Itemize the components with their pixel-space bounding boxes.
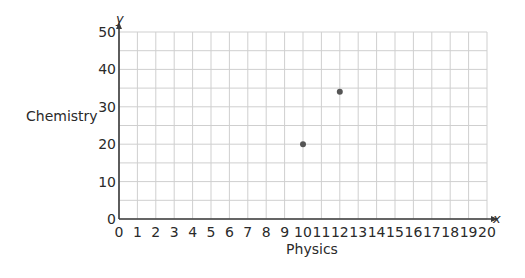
x-tick-label: 14 <box>368 224 386 240</box>
x-tick-label: 6 <box>225 224 234 240</box>
x-axis-variable: x <box>492 211 501 226</box>
x-tick-label: 1 <box>133 224 142 240</box>
x-tick-label: 12 <box>331 224 349 240</box>
x-tick-label: 3 <box>170 224 179 240</box>
x-tick-label: 4 <box>188 224 197 240</box>
data-point <box>337 89 343 95</box>
axes <box>116 22 498 222</box>
x-tick-label: 17 <box>423 224 441 240</box>
y-tick-labels: 01020304050 <box>98 24 116 227</box>
x-tick-label: 8 <box>262 224 271 240</box>
x-axis-title: Physics <box>286 241 338 257</box>
x-tick-label: 16 <box>404 224 422 240</box>
y-tick-label: 40 <box>98 61 116 77</box>
x-tick-label: 18 <box>441 224 459 240</box>
x-tick-label: 20 <box>478 224 496 240</box>
x-tick-label: 7 <box>243 224 252 240</box>
y-tick-label: 30 <box>98 99 116 115</box>
y-tick-label: 50 <box>98 24 116 40</box>
x-tick-label: 15 <box>386 224 404 240</box>
x-tick-label: 11 <box>312 224 330 240</box>
y-tick-label: 0 <box>107 211 116 227</box>
x-tick-label: 5 <box>207 224 216 240</box>
x-tick-label: 13 <box>349 224 367 240</box>
y-tick-label: 20 <box>98 136 116 152</box>
y-axis-variable: y <box>115 11 124 26</box>
x-tick-label: 9 <box>280 224 289 240</box>
x-tick-label: 2 <box>151 224 160 240</box>
x-tick-labels: 01234567891011121314151617181920 <box>115 224 496 240</box>
data-point <box>300 141 306 147</box>
x-tick-label: 10 <box>294 224 312 240</box>
y-tick-label: 10 <box>98 174 116 190</box>
grid <box>119 32 487 219</box>
x-tick-label: 19 <box>460 224 478 240</box>
scatter-chart: 01234567891011121314151617181920 0102030… <box>0 0 525 278</box>
y-axis-title: Chemistry <box>26 108 98 124</box>
